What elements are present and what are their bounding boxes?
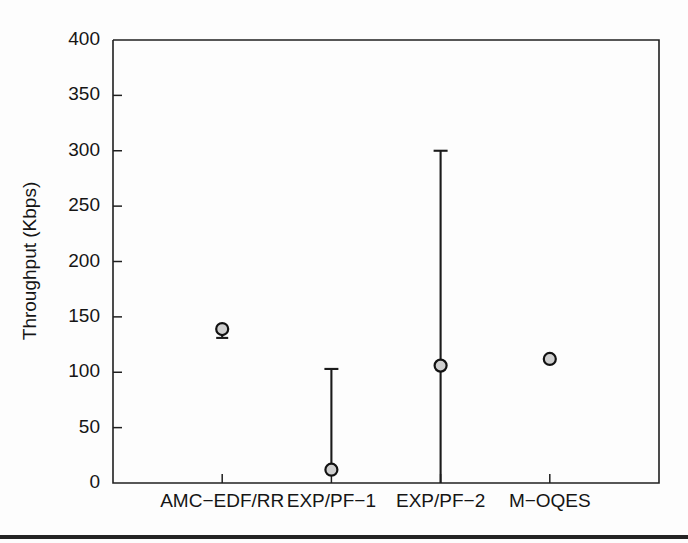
data-series xyxy=(216,151,556,483)
data-marker xyxy=(325,464,337,476)
data-marker xyxy=(544,353,556,365)
data-marker xyxy=(216,323,228,335)
y-tick-label: 200 xyxy=(68,250,100,271)
y-tick-label: 300 xyxy=(68,139,100,160)
y-axis-title: Throughput (Kbps) xyxy=(19,182,40,340)
y-tick-label: 350 xyxy=(68,83,100,104)
page-bottom-rule xyxy=(0,535,688,539)
x-axis-ticks: AMC−EDF/RREXP/PF−1EXP/PF−2M−OQES xyxy=(160,474,591,511)
y-tick-label: 150 xyxy=(68,305,100,326)
y-tick-label: 0 xyxy=(89,471,100,492)
y-tick-label: 100 xyxy=(68,360,100,381)
axis-box xyxy=(113,40,659,483)
x-tick-label: AMC−EDF/RR xyxy=(160,490,284,511)
data-point xyxy=(216,323,228,338)
data-point xyxy=(324,369,338,476)
data-point xyxy=(434,151,448,483)
throughput-chart: 050100150200250300350400 AMC−EDF/RREXP/P… xyxy=(0,0,688,543)
y-tick-label: 50 xyxy=(79,416,100,437)
plot-axes xyxy=(113,40,659,483)
figure-canvas: 050100150200250300350400 AMC−EDF/RREXP/P… xyxy=(0,0,688,543)
y-tick-label: 400 xyxy=(68,28,100,49)
y-tick-label: 250 xyxy=(68,194,100,215)
y-axis-ticks: 050100150200250300350400 xyxy=(68,28,122,492)
x-tick-label: EXP/PF−2 xyxy=(396,490,485,511)
x-tick-label: M−OQES xyxy=(509,490,591,511)
data-marker xyxy=(435,360,447,372)
data-point xyxy=(544,353,556,365)
x-tick-label: EXP/PF−1 xyxy=(287,490,376,511)
